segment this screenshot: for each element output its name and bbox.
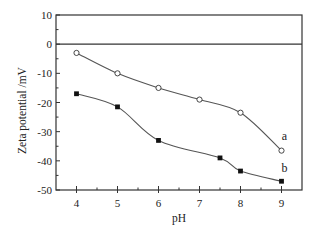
x-tick-label: 9 bbox=[279, 197, 285, 209]
y-tick-label: -30 bbox=[37, 126, 52, 138]
marker-b-filled-square bbox=[238, 169, 243, 174]
series-markers bbox=[74, 50, 284, 183]
x-tick-label: 4 bbox=[74, 197, 80, 209]
marker-a-open-circle bbox=[279, 148, 284, 153]
marker-a-open-circle bbox=[74, 50, 79, 55]
y-tick-label: -40 bbox=[37, 155, 52, 167]
x-tick-label: 5 bbox=[115, 197, 121, 209]
marker-a-open-circle bbox=[238, 110, 243, 115]
marker-b-filled-square bbox=[279, 179, 284, 184]
series-label-b: b bbox=[282, 161, 288, 175]
x-tick-label: 7 bbox=[197, 197, 203, 209]
marker-a-open-circle bbox=[197, 97, 202, 102]
marker-b-filled-square bbox=[115, 104, 120, 109]
y-tick-label: 0 bbox=[47, 38, 53, 50]
series-label-a: a bbox=[282, 129, 288, 143]
x-axis-title: pH bbox=[172, 212, 186, 225]
curve-b bbox=[77, 94, 282, 182]
y-tick-label: -20 bbox=[37, 97, 52, 109]
marker-b-filled-square bbox=[74, 91, 79, 96]
marker-b-filled-square bbox=[218, 156, 223, 161]
zeta-potential-chart: 100-10-20-30-40-50 456789 ab pH Zeta pot… bbox=[0, 0, 318, 232]
marker-a-open-circle bbox=[115, 71, 120, 76]
marker-a-open-circle bbox=[156, 85, 161, 90]
y-tick-label: -10 bbox=[37, 67, 52, 79]
y-tick-label: -50 bbox=[37, 184, 52, 196]
plot-frame bbox=[56, 15, 302, 190]
y-tick-label: 10 bbox=[41, 9, 53, 21]
x-tick-label: 8 bbox=[238, 197, 244, 209]
y-axis-title: Zeta potential /mV bbox=[16, 66, 29, 154]
marker-b-filled-square bbox=[156, 138, 161, 143]
plot-border bbox=[56, 15, 302, 190]
x-tick-label: 6 bbox=[156, 197, 162, 209]
series-curves bbox=[77, 53, 282, 181]
